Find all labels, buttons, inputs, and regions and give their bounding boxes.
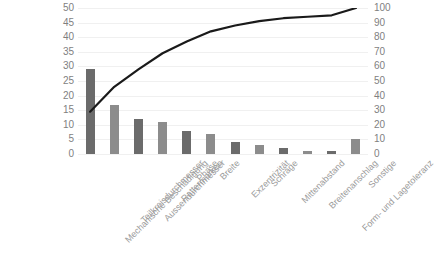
y-axis-left-tick: 35 bbox=[63, 47, 74, 57]
bar-slot bbox=[199, 8, 223, 154]
y-axis-left-tick: 50 bbox=[63, 3, 74, 13]
bar-slot bbox=[344, 8, 368, 154]
bar-slot bbox=[78, 8, 102, 154]
bar-slot bbox=[247, 8, 271, 154]
y-axis-right-tick: 20 bbox=[374, 120, 385, 130]
y-axis-right-tick: 100 bbox=[374, 3, 391, 13]
y-axis-right-tick: 30 bbox=[374, 105, 385, 115]
y-axis-left: 05101520253035404550 bbox=[48, 8, 74, 154]
y-axis-right-tick: 60 bbox=[374, 61, 385, 71]
y-axis-left-tick: 30 bbox=[63, 61, 74, 71]
bar[interactable] bbox=[86, 69, 95, 154]
y-axis-left-tick: 5 bbox=[68, 134, 74, 144]
y-axis-left-tick: 0 bbox=[68, 149, 74, 159]
y-axis-right-tick: 0 bbox=[374, 149, 380, 159]
bar[interactable] bbox=[255, 145, 264, 154]
y-axis-left-tick: 10 bbox=[63, 120, 74, 130]
bar[interactable] bbox=[110, 105, 119, 154]
x-axis-category-labels: Mechanische BeschädigungTeilkreisdurchme… bbox=[78, 154, 368, 259]
bar-slot bbox=[126, 8, 150, 154]
y-axis-right-tick: 40 bbox=[374, 91, 385, 101]
y-axis-right-tick: 90 bbox=[374, 18, 385, 28]
y-axis-right-tick: 80 bbox=[374, 32, 385, 42]
y-axis-right-tick: 50 bbox=[374, 76, 385, 86]
bar-slot bbox=[175, 8, 199, 154]
plot-area bbox=[78, 8, 368, 154]
y-axis-right-tick: 70 bbox=[374, 47, 385, 57]
bar-slot bbox=[223, 8, 247, 154]
bar-slot bbox=[271, 8, 295, 154]
bar-slot bbox=[102, 8, 126, 154]
bar[interactable] bbox=[206, 134, 215, 154]
y-axis-left-tick: 15 bbox=[63, 105, 74, 115]
y-axis-right-tick: 10 bbox=[374, 134, 385, 144]
bar-slot bbox=[296, 8, 320, 154]
bar[interactable] bbox=[134, 119, 143, 154]
bar[interactable] bbox=[182, 131, 191, 154]
y-axis-left-tick: 20 bbox=[63, 91, 74, 101]
bar-slot bbox=[320, 8, 344, 154]
y-axis-left-tick: 25 bbox=[63, 76, 74, 86]
y-axis-left-tick: 45 bbox=[63, 18, 74, 28]
bar-series bbox=[78, 8, 368, 154]
bar[interactable] bbox=[351, 139, 360, 154]
bar[interactable] bbox=[158, 122, 167, 154]
bar[interactable] bbox=[231, 142, 240, 154]
bar-slot bbox=[151, 8, 175, 154]
y-axis-left-tick: 40 bbox=[63, 32, 74, 42]
y-axis-right: 0102030405060708090100 bbox=[374, 8, 400, 154]
